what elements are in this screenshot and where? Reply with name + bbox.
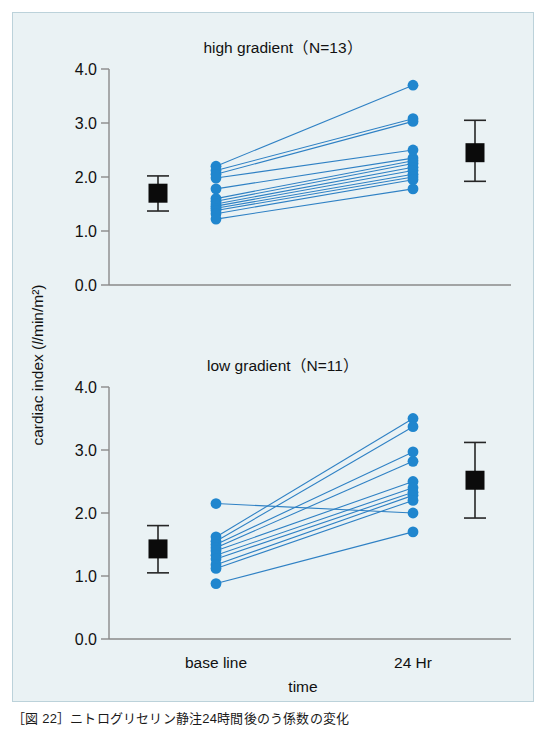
data-point-24hr [408,116,419,127]
data-point-24hr [408,446,419,457]
y-tick-1-0-bottom: 1.0 [75,568,97,585]
data-point-baseline [211,578,222,589]
x-category-24hr: 24 Hr [394,654,432,671]
panel-high-gradient: high gradient（N=13） 4.0 3.0 2.0 1.0 0.0 [75,39,511,294]
data-point-24hr [408,183,419,194]
x-category-base-line: base line [185,654,247,671]
paired-link [216,492,413,559]
data-point-baseline [211,214,222,225]
y-tick-2-0-bottom: 2.0 [75,505,97,522]
y-axis-label: cardiac index (l/min/m²) [29,284,46,445]
mean-marker [149,539,168,558]
y-tick-4-0-bottom: 4.0 [75,379,97,396]
data-point-24hr [408,508,419,519]
paired-link [216,482,413,551]
paired-links-high-gradient [216,85,413,219]
y-axis-label-suffix: /min/m²) [29,284,46,341]
y-tick-1-0-top: 1.0 [75,223,97,240]
panel-low-gradient: low gradient（N=11） 4.0 3.0 2.0 1.0 0.0 [75,357,511,648]
data-point-24hr [408,421,419,432]
mean-marker [466,143,485,162]
figure-card: high gradient（N=13） 4.0 3.0 2.0 1.0 0.0 [12,12,534,702]
y-tick-3-0-top: 3.0 [75,115,97,132]
panel-title-high-gradient: high gradient（N=13） [203,39,362,56]
mean-marker [466,471,485,490]
data-point-baseline [211,563,222,574]
data-point-baseline [211,498,222,509]
data-point-24hr [408,495,419,506]
paired-link [216,427,413,542]
summary-error-bars-high-gradient [147,120,486,211]
paired-link [216,419,413,537]
y-tick-0-0-bottom: 0.0 [75,631,97,648]
paired-link [216,167,413,204]
x-axis-label: time [288,678,317,695]
y-axis-low-gradient: 4.0 3.0 2.0 1.0 0.0 [75,379,109,648]
chart-canvas: high gradient（N=13） 4.0 3.0 2.0 1.0 0.0 [13,13,533,701]
y-axis-high-gradient: 4.0 3.0 2.0 1.0 0.0 [75,61,109,294]
summary-error-bars-low-gradient [147,442,486,572]
paired-links-low-gradient [216,419,413,584]
data-points-high-gradient [211,80,419,225]
y-tick-3-0-bottom: 3.0 [75,442,97,459]
mean-marker [149,184,168,203]
paired-link [216,171,413,207]
y-tick-4-0-top: 4.0 [75,61,97,78]
data-point-baseline [211,183,222,194]
data-point-baseline [211,173,222,184]
y-axis-label-prefix: cardiac index ( [29,344,46,446]
y-tick-0-0-top: 0.0 [75,277,97,294]
data-point-24hr [408,527,419,538]
figure-caption: ［図 22］ニトログリセリン静注24時間後のう係数の変化 [12,708,542,727]
data-point-24hr [408,456,419,467]
y-tick-2-0-top: 2.0 [75,169,97,186]
data-point-24hr [408,80,419,91]
panel-title-low-gradient: low gradient（N=11） [207,357,359,374]
